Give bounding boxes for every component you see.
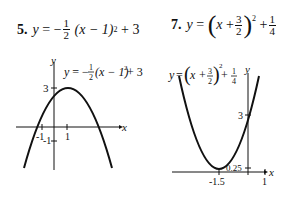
svg-text:=: =	[176, 68, 183, 82]
parabola-curve	[24, 88, 112, 168]
tick-label-y-3: 3	[43, 82, 49, 94]
tick-label-x-neg15: -1.5	[209, 176, 225, 187]
y-axis-label: y	[244, 63, 250, 75]
tick-label-x-1: 1	[65, 131, 70, 142]
graphs: x y 3 -1 -1 1 y = − 1 2 (x − 1) 2 + 3 x …	[0, 0, 283, 199]
x-axis-label: x	[121, 121, 127, 133]
graph-problem-7: x y 3 0.25 -1.5 1 y = ( x + 3 2 ) 2 + 1 …	[168, 62, 274, 187]
svg-text:4: 4	[232, 77, 236, 86]
svg-text:+ 3: + 3	[127, 65, 143, 79]
curve-label: y	[168, 68, 175, 82]
svg-text:2: 2	[208, 77, 212, 86]
svg-text:1: 1	[232, 67, 236, 76]
svg-text:2: 2	[89, 73, 93, 82]
tick-label-y-neg1: -1	[43, 135, 51, 146]
parabola-curve	[179, 76, 259, 169]
curve-label: y = −	[63, 65, 89, 79]
y-axis-label: y	[50, 54, 56, 66]
graph-problem-5: x y 3 -1 -1 1 y = − 1 2 (x − 1) 2 + 3	[16, 54, 143, 170]
x-axis-label: x	[268, 166, 274, 178]
svg-text:3: 3	[208, 67, 212, 76]
tick-label-y-3: 3	[238, 110, 243, 121]
svg-text:x +: x +	[189, 68, 206, 82]
svg-text:1: 1	[89, 63, 93, 72]
svg-text:+: +	[221, 68, 228, 82]
tick-label-x-1: 1	[262, 176, 267, 187]
